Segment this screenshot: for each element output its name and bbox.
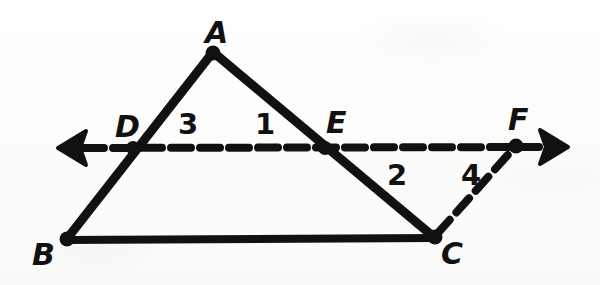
point-label-C: C xyxy=(441,239,463,269)
angle-label-3: 3 xyxy=(178,110,198,139)
angle-label-1: 1 xyxy=(255,110,275,139)
segment-DF-dashed xyxy=(84,147,545,148)
right-arrowhead-icon xyxy=(540,130,568,164)
left-arrowhead-icon xyxy=(58,131,86,165)
geometry-figure: A B C D E F 1 2 3 4 xyxy=(0,0,600,285)
angle-label-2: 2 xyxy=(387,161,407,190)
vertex-dot-E xyxy=(318,141,332,155)
segment-BC xyxy=(66,238,435,240)
point-label-D: D xyxy=(115,112,140,142)
point-label-F: F xyxy=(508,105,529,135)
point-label-A: A xyxy=(205,18,228,48)
angle-label-4: 4 xyxy=(461,161,481,190)
diagram-canvas xyxy=(0,0,600,285)
transversal-line-DEF xyxy=(84,147,545,148)
point-label-B: B xyxy=(32,240,55,270)
vertex-dot-B xyxy=(60,232,75,247)
vertex-dot-F xyxy=(509,139,524,154)
point-label-E: E xyxy=(326,108,347,138)
